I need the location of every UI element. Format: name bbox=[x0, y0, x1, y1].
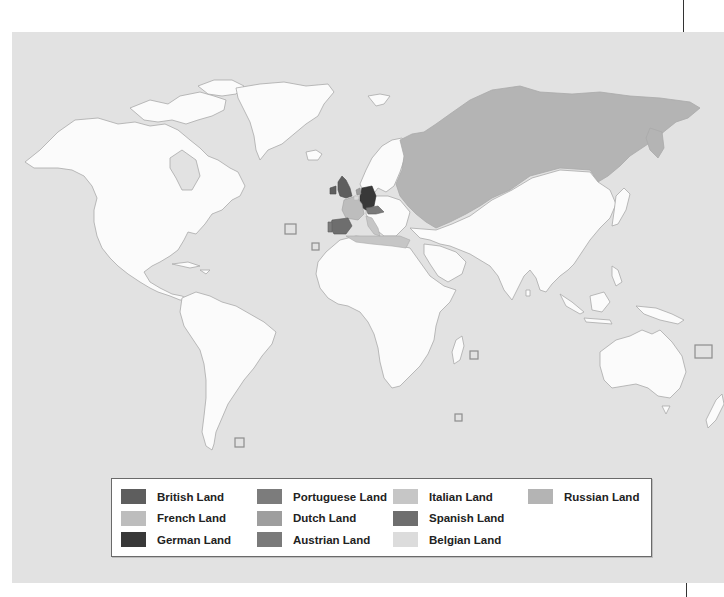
new-caledonia-inset bbox=[695, 345, 712, 358]
legend-item-french: French Land bbox=[121, 508, 257, 530]
belgian-swatch bbox=[393, 532, 418, 547]
borneo bbox=[590, 292, 610, 312]
legend-item-british: British Land bbox=[121, 486, 257, 508]
austrian-swatch bbox=[257, 532, 282, 547]
mauritius-inset bbox=[470, 351, 478, 359]
russian-swatch bbox=[528, 489, 553, 504]
arctic-islands bbox=[130, 92, 226, 124]
legend-label: Dutch Land bbox=[293, 512, 356, 524]
legend-label: Austrian Land bbox=[293, 534, 370, 546]
tasmania bbox=[662, 406, 670, 414]
new-zealand bbox=[706, 394, 724, 428]
german-swatch bbox=[121, 532, 146, 547]
legend-item-belgian: Belgian Land bbox=[393, 529, 528, 551]
dutch-land bbox=[356, 188, 361, 195]
sumatra bbox=[560, 294, 584, 314]
legend-item-german: German Land bbox=[121, 529, 257, 551]
south-america bbox=[180, 292, 276, 450]
java bbox=[584, 318, 612, 324]
philippines bbox=[612, 266, 622, 286]
british-swatch bbox=[121, 489, 146, 504]
legend-grid: British Land French Land German Land Por… bbox=[121, 486, 648, 551]
legend-item-spanish: Spanish Land bbox=[393, 508, 528, 530]
iceland bbox=[306, 150, 322, 160]
sri-lanka bbox=[526, 290, 530, 296]
legend-label: Russian Land bbox=[564, 491, 639, 503]
spanish-swatch bbox=[393, 511, 418, 526]
falklands-inset bbox=[235, 438, 244, 447]
legend-label: Spanish Land bbox=[429, 512, 504, 524]
portuguese-swatch bbox=[257, 489, 282, 504]
legend-label: Italian Land bbox=[429, 491, 493, 503]
legend-label: Belgian Land bbox=[429, 534, 501, 546]
dutch-swatch bbox=[257, 511, 282, 526]
legend-item-portuguese: Portuguese Land bbox=[257, 486, 393, 508]
legend-label: Portuguese Land bbox=[293, 491, 387, 503]
belgian-land bbox=[354, 196, 359, 200]
cuba bbox=[172, 262, 200, 268]
spanish-land bbox=[330, 218, 352, 234]
kerguelen-inset bbox=[455, 414, 462, 421]
north-america bbox=[25, 118, 245, 300]
australia bbox=[600, 330, 686, 398]
french-swatch bbox=[121, 511, 146, 526]
legend-item-dutch: Dutch Land bbox=[257, 508, 393, 530]
page-margin-rule-bottom bbox=[686, 583, 687, 597]
map-legend: British Land French Land German Land Por… bbox=[111, 478, 652, 557]
british-land bbox=[330, 176, 352, 198]
legend-item-austrian: Austrian Land bbox=[257, 529, 393, 551]
legend-label: German Land bbox=[157, 534, 231, 546]
legend-label: French Land bbox=[157, 512, 226, 524]
greenland bbox=[236, 82, 334, 160]
madeira-inset bbox=[312, 243, 319, 250]
italian-swatch bbox=[393, 489, 418, 504]
azores-inset bbox=[285, 224, 296, 234]
japan bbox=[612, 188, 630, 226]
madagascar bbox=[452, 336, 464, 364]
page-margin-rule-top bbox=[683, 0, 684, 32]
legend-item-italian: Italian Land bbox=[393, 486, 528, 508]
hispaniola bbox=[200, 270, 210, 274]
svalbard bbox=[368, 94, 390, 106]
world-map: British Land French Land German Land Por… bbox=[12, 32, 724, 583]
portuguese-land bbox=[328, 222, 332, 232]
legend-item-russian: Russian Land bbox=[528, 486, 648, 508]
new-guinea bbox=[636, 306, 684, 324]
legend-label: British Land bbox=[157, 491, 224, 503]
